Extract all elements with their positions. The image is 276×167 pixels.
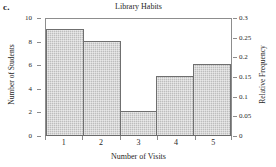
y-axis-right-tick-mark — [233, 38, 237, 39]
y-axis-right-tick-label: 0.3 — [239, 15, 248, 22]
y-axis-right-tick-mark — [233, 77, 237, 78]
y-axis-left-tick-label: 10 — [25, 15, 32, 22]
y-axis-right-tick-mark — [233, 116, 237, 117]
y-axis-right-tick-label: 0.25 — [239, 34, 251, 41]
y-axis-left-tick-label: 2 — [29, 109, 33, 116]
y-axis-left-title: Number of Students — [7, 35, 16, 115]
plot-area — [45, 18, 232, 136]
part-label: c. — [3, 2, 10, 12]
y-axis-right-tick-label: 0 — [239, 133, 243, 140]
y-axis-right-tick-mark — [233, 57, 237, 58]
bar — [156, 76, 194, 135]
bar — [46, 29, 84, 135]
y-axis-right-tick-label: 0.15 — [239, 74, 251, 81]
chart-title: Library Habits — [45, 2, 232, 11]
y-axis-left-tick-mark — [37, 112, 41, 113]
y-axis-right-title: Relative Frequency — [258, 35, 267, 115]
y-axis-left-tick-label: 6 — [29, 62, 33, 69]
y-axis-left-tick-label: 8 — [29, 38, 33, 45]
y-axis-right-tick-mark — [233, 18, 237, 19]
y-axis-left-tick-mark — [37, 65, 41, 66]
x-axis-tick-label: 5 — [195, 138, 232, 152]
y-axis-left-tick-mark — [37, 89, 41, 90]
y-axis-left-tick-mark — [37, 18, 41, 19]
y-axis-left-tick-mark — [37, 136, 41, 137]
y-axis-right-tick-label: 0.1 — [239, 93, 248, 100]
y-axis-right-tick-mark — [233, 136, 237, 137]
x-axis-title: Number of Visits — [45, 152, 232, 161]
bar-series — [46, 19, 231, 135]
y-axis-right-tick-label: 0.2 — [239, 54, 248, 61]
y-axis-right-tick-label: 0.05 — [239, 113, 251, 120]
bar — [83, 41, 121, 135]
y-axis-left-tick-label: 4 — [29, 85, 33, 92]
y-axis-right-tick-mark — [233, 97, 237, 98]
y-axis-left-tick-label: 0 — [29, 133, 33, 140]
chart-figure: c. Library Habits 0246810 00.050.10.150.… — [0, 0, 276, 167]
bar — [193, 64, 231, 135]
y-axis-left-tick-mark — [37, 42, 41, 43]
x-axis-tick-label: 1 — [45, 138, 82, 152]
bar — [120, 111, 158, 135]
x-axis-tick-label: 4 — [157, 138, 194, 152]
x-axis-tick-labels: 12345 — [45, 138, 232, 152]
x-axis-tick-label: 2 — [82, 138, 119, 152]
y-axis-right: 00.050.10.150.20.250.3 — [233, 18, 257, 136]
x-axis-tick-label: 3 — [120, 138, 157, 152]
